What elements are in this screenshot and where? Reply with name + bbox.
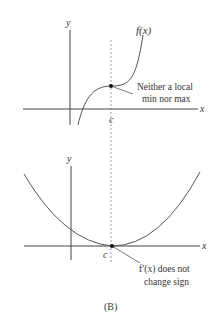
bottom-annotation-line2: change sign [144, 277, 189, 287]
bottom-point-c [110, 244, 114, 248]
figure-canvas: y x c f(x) Neither a local min nor max y… [0, 0, 221, 330]
bottom-pointer-line [112, 246, 140, 263]
bottom-graph: y x c f′(x) does not change sign [24, 153, 207, 287]
top-graph: y x c f(x) Neither a local min nor max [23, 17, 205, 125]
top-curve-label: f(x) [136, 24, 152, 37]
bottom-y-label: y [66, 153, 72, 164]
top-point-c [109, 84, 113, 88]
top-annotation-line2: min nor max [142, 94, 191, 104]
bottom-c-label: c [103, 249, 108, 260]
top-curve [78, 35, 143, 125]
figure-caption: (B) [104, 301, 117, 313]
top-y-label: y [65, 17, 71, 28]
top-pointer-line [111, 86, 133, 94]
top-c-label: c [109, 114, 114, 125]
top-annotation-line1: Neither a local [137, 82, 193, 92]
top-x-label: x [199, 103, 205, 114]
bottom-x-label: x [201, 240, 207, 251]
bottom-annotation-line1: f′(x) does not [139, 264, 190, 275]
bottom-curve [24, 172, 200, 246]
